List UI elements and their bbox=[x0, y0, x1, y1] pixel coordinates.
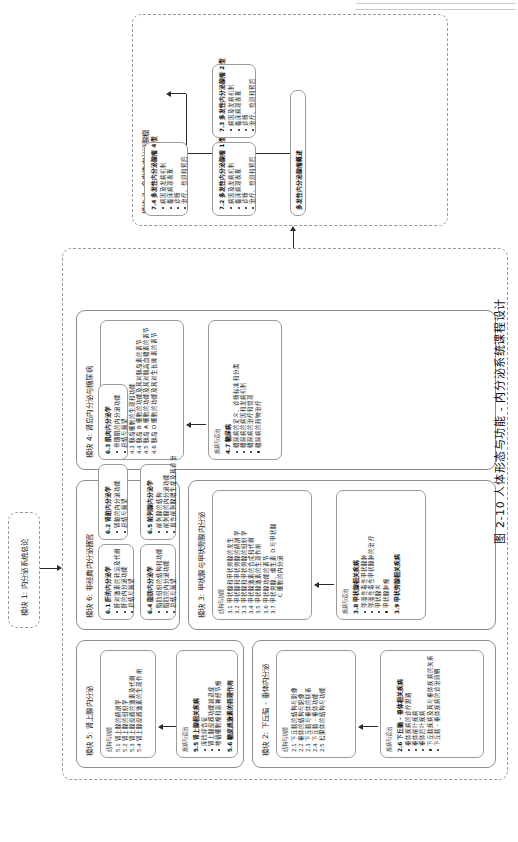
list-item: 病因及发病机制 bbox=[228, 148, 235, 210]
module7-hub-label: 多发性内分泌腺瘤概述 bbox=[294, 150, 303, 210]
list-item: 临床病理表现 bbox=[235, 148, 242, 210]
list-item: 脂肪的内分泌功能 bbox=[163, 550, 170, 614]
module6-card-62-sub: 6.2 肾脏内分泌学 bbox=[103, 470, 112, 534]
list-item: 3.1甲状腺和甲状旁腺的发生 bbox=[227, 496, 234, 614]
list-item: 病因及发病机制 bbox=[228, 70, 235, 132]
module3-structure-list: 3.1甲状腺和甲状旁腺的发生 3.2甲状腺和甲状旁腺的解剖学 3.3甲状腺和甲状… bbox=[227, 496, 285, 614]
list-item: 肾脏的内分泌功能 bbox=[114, 470, 121, 534]
module5-structure-card: 结构与功能 5.1肾上腺的解剖学 5.2肾上腺的组织学 5.3肾上腺皮质的激素及… bbox=[100, 650, 156, 758]
list-item: 肝对激素的转运及代谢 bbox=[114, 550, 121, 614]
module7-card-74: 7.4 多发性内分泌腺瘤 4 型 病因及发病机制 临床病理表现 诊断 治疗、检测… bbox=[144, 142, 188, 216]
module5-disease-sub2: 5.6 糖皮质激素的药理作用 bbox=[225, 656, 234, 752]
module4-label: 模块 4: 肾岛内分泌与糖尿病 bbox=[83, 366, 94, 458]
module5-label: 模块 5: 肾上腺内分泌 bbox=[83, 686, 94, 756]
module7-card-72-list: 病因及发病机制 临床病理表现 诊断 治疗、检测和预后 bbox=[228, 148, 257, 210]
module6-card-64-sub: 6.4 脂肪内分泌学 bbox=[145, 550, 154, 614]
module6-card-62-list: 肾脏的内分泌功能 总结与展望 bbox=[114, 470, 128, 534]
module6-card-62: 6.2 肾脏内分泌学 肾脏的内分泌功能 总结与展望 bbox=[98, 464, 128, 540]
list-item: 3.6甲状腺功能的调节 bbox=[263, 496, 270, 614]
list-item: 治疗、检测和预后 bbox=[181, 148, 188, 210]
arrow-module2-structure-to-disease bbox=[358, 724, 378, 730]
list-item: 5.4肾上腺皮质激素的生理作用 bbox=[136, 656, 143, 752]
module5-disease-sub: 5.5 肾上腺相关疾病 bbox=[191, 656, 200, 752]
module5-structure-list: 5.1肾上腺的解剖学 5.2肾上腺的组织学 5.3肾上腺皮质的激素及代谢 5.4… bbox=[115, 656, 144, 752]
module6-card-63: 6.3 肌肉内分泌学 骨骼肌的内分泌功能 总结与展望 bbox=[98, 384, 128, 460]
list-item: 前列腺的结构 bbox=[156, 470, 163, 534]
module2-label: 模块 2: 下丘脑 - 垂体内分泌 bbox=[259, 663, 270, 756]
list-item: 下丘脑疾病及其与垂体疾病的关系 bbox=[427, 656, 434, 752]
list-item: 糖尿病的治疗和管理 bbox=[247, 326, 254, 454]
arrow-module1-to-module2 bbox=[40, 565, 62, 571]
module4-disease-sub: 4.7 糖尿病 bbox=[223, 326, 232, 454]
module4-disease-card: 疾病与诊治 4.7 糖尿病 糖尿病的定义、诊断标准和分类 糖尿病的病因和发病机制… bbox=[208, 320, 282, 460]
module3-disease-head: 疾病与诊治 bbox=[341, 496, 349, 614]
module6-card-64: 6.4 脂肪内分泌学 脂肪组织的结构和功能 脂肪的内分泌功能 总结与展望 bbox=[140, 544, 176, 620]
module1-label: 模块 1: 内分泌系统总论 bbox=[18, 539, 29, 617]
module2-structure-head: 结构与功能 bbox=[281, 656, 289, 752]
figure-caption: 图 2-10 人体形态与功能 - 内分泌系统课程设计 bbox=[486, 0, 512, 842]
module3-disease-sub: 3.8 甲状腺相关疾病 bbox=[351, 496, 360, 614]
list-item: 3.5甲状腺激素的生理作用 bbox=[255, 496, 262, 614]
module6-card-61: 6.1 肝的内分泌学 肝对激素的转运及代谢 肝的内分泌功能 总结与展望 bbox=[98, 544, 134, 620]
list-item: 肝的内分泌功能 bbox=[121, 550, 128, 614]
module3-disease-sub2: 3.9 甲状旁腺相关疾病 bbox=[392, 496, 401, 614]
list-item: 良性前列腺增生症及其诊治 bbox=[170, 470, 177, 534]
list-item: 3.2甲状腺和甲状旁腺的解剖学 bbox=[234, 496, 241, 614]
module6-card-65-sub: 6.5 前列腺内分泌学 bbox=[145, 470, 154, 534]
module4-disease-list: 糖尿病的定义、诊断标准和分类 糖尿病的病因和发病机制 糖尿病的治疗和管理 糖尿病… bbox=[233, 326, 262, 454]
module5-structure-head: 结构与功能 bbox=[105, 656, 113, 752]
list-item-continuation: C 细胞的内分泌 bbox=[277, 496, 284, 614]
module6-card-65: 6.5 前列腺内分泌学 前列腺的结构 前列腺的内分泌功能 良性前列腺增生症及其诊… bbox=[140, 464, 176, 540]
list-item: 5.1肾上腺的解剖学 bbox=[115, 656, 122, 752]
module2-disease-list: 垂体疾病的诊疗思路 垂体前叶疾病 垂体后叶疾病 下丘脑疾病及其与垂体疾病的关系 … bbox=[405, 656, 441, 752]
list-item: 总结与展望 bbox=[170, 550, 177, 614]
module7-card-73: 7.3 多发性内分泌腺瘤 2 型 病因及发病机制 临床病理表现 诊断 治疗、检测… bbox=[212, 64, 256, 138]
module3-disease-card: 疾病与诊治 3.8 甲状腺相关疾病 弥漫性毒性甲状腺肿 弥漫性毒性甲状腺肿的治疗… bbox=[336, 490, 426, 620]
module2-disease-sub: 2.6 下丘脑 - 垂体相关疾病 bbox=[395, 656, 404, 752]
list-item: 4.6胰岛 D 细胞的功能及其对生长抑素的调节 bbox=[151, 326, 158, 454]
list-item: 甲状腺肿瘤 bbox=[383, 496, 390, 614]
arrow-module3-structure-to-disease bbox=[314, 582, 334, 588]
list-item: 临床病理表现 bbox=[167, 148, 174, 210]
list-item: 2.1下丘脑的结构与影像 bbox=[291, 656, 298, 752]
module5-disease-card: 疾病与诊治 5.5 肾上腺相关疾病 库欣综合征 肾上腺皮质功能减退症 嗜铬细胞瘤… bbox=[176, 650, 238, 758]
list-item: 脂肪组织的结构和功能 bbox=[156, 550, 163, 614]
list-item: 骨骼肌的内分泌功能 bbox=[114, 390, 121, 454]
module6-card-65-list: 前列腺的结构 前列腺的内分泌功能 良性前列腺增生症及其诊治 bbox=[156, 470, 178, 534]
list-item: 甲状腺炎 bbox=[375, 496, 382, 614]
module5-disease-list: 库欣综合征 肾上腺皮质功能减退症 嗜铬细胞瘤和副神经节瘤 bbox=[201, 656, 223, 752]
list-item: 嗜铬细胞瘤和副神经节瘤 bbox=[215, 656, 222, 752]
module6-label: 模块 6: 非经典内分泌器官 bbox=[83, 533, 94, 618]
list-item: 糖尿病的药物治疗 bbox=[255, 326, 262, 454]
module2-disease-card: 疾病与诊治 2.6 下丘脑 - 垂体相关疾病 垂体疾病的诊疗思路 垂体前叶疾病 … bbox=[380, 650, 484, 758]
module7-card-74-sub: 7.4 多发性内分泌腺瘤 4 型 bbox=[149, 148, 158, 210]
list-item: 治疗、检测和预后 bbox=[249, 70, 256, 132]
list-item: 总结与展望 bbox=[128, 550, 135, 614]
list-item: 2.5松果体的结构与功能 bbox=[319, 656, 326, 752]
module7-card-72: 7.2 多发性内分泌腺瘤 1 型 病因及发病机制 临床病理表现 诊断 治疗、检测… bbox=[212, 142, 256, 216]
list-item: 总结与展望 bbox=[121, 470, 128, 534]
figure-caption-text: 图 2-10 人体形态与功能 - 内分泌系统课程设计 bbox=[491, 298, 507, 544]
list-item: 总结与展望 bbox=[121, 390, 128, 454]
list-item: 治疗、检测和预后 bbox=[249, 148, 256, 210]
module6-card-63-list: 骨骼肌的内分泌功能 总结与展望 bbox=[114, 390, 128, 454]
list-item: 临床病理表现 bbox=[235, 70, 242, 132]
module7-card-74-list: 病因及发病机制 临床病理表现 诊断 治疗、检测和预后 bbox=[160, 148, 189, 210]
module7-card-73-sub: 7.3 多发性内分泌腺瘤 2 型 bbox=[217, 70, 226, 132]
list-item: 病因及发病机制 bbox=[160, 148, 167, 210]
module6-card-61-sub: 6.1 肝的内分泌学 bbox=[103, 550, 112, 614]
list-item: 下丘脑 - 垂体疾病的诊治原则 bbox=[434, 656, 441, 752]
module3-label: 模块 3: 甲状腺与甲状旁腺内分泌 bbox=[195, 512, 206, 618]
list-item: 3.7甲状旁腺、维生素 D 与甲状腺 bbox=[270, 496, 277, 614]
module7-card-72-sub: 7.2 多发性内分泌腺瘤 1 型 bbox=[217, 148, 226, 210]
module4-disease-head: 疾病与诊治 bbox=[213, 326, 221, 454]
module2-disease-head: 疾病与诊治 bbox=[385, 656, 393, 752]
module7-hub-card: 多发性内分泌腺瘤概述 bbox=[290, 90, 306, 216]
module2-structure-card: 结构与功能 2.1下丘脑的结构与影像 2.2垂体的结构与影像 2.3下丘脑与垂体… bbox=[276, 650, 356, 758]
module5-disease-head: 疾病与诊治 bbox=[181, 656, 189, 752]
module6-card-63-sub: 6.3 肌肉内分泌学 bbox=[103, 390, 112, 454]
arrow-module4-structure-to-disease bbox=[186, 422, 206, 428]
list-item: 垂体后叶疾病 bbox=[419, 656, 426, 752]
module6-card-61-list: 肝对激素的转运及代谢 肝的内分泌功能 总结与展望 bbox=[114, 550, 136, 614]
arrow-hub-to-card-74 bbox=[166, 91, 186, 97]
